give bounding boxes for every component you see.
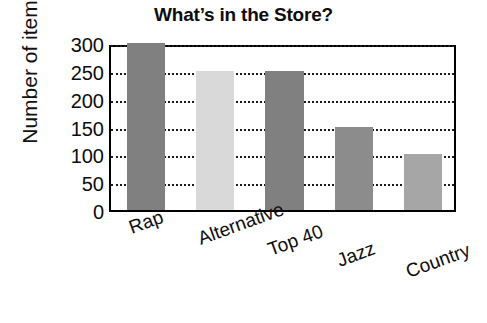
bar <box>127 43 165 210</box>
x-tick-label: Country <box>403 239 473 282</box>
y-tick-label: 100 <box>48 146 104 166</box>
bar <box>196 71 234 210</box>
y-axis-tick-labels: 050100150200250300 <box>48 45 104 212</box>
bars-layer <box>111 47 454 210</box>
y-tick-label: 250 <box>48 63 104 83</box>
chart-title: What’s in the Store? <box>0 4 487 26</box>
y-tick-label: 150 <box>48 119 104 139</box>
y-tick-label: 300 <box>48 35 104 55</box>
y-tick-label: 200 <box>48 91 104 111</box>
x-tick-label: Jazz <box>334 238 378 272</box>
y-axis-title: Number of item <box>13 0 47 162</box>
y-tick-label: 0 <box>48 202 104 222</box>
bar <box>404 154 442 210</box>
plot-area <box>109 45 456 212</box>
y-tick-label: 50 <box>48 174 104 194</box>
x-tick-label: Top 40 <box>265 220 326 260</box>
bar <box>335 127 373 211</box>
bar <box>265 71 303 210</box>
bar-chart-figure: What’s in the Store? Number of item 0501… <box>0 0 487 323</box>
x-axis-tick-labels: RapAlternativeTop 40JazzCountry <box>109 212 456 307</box>
